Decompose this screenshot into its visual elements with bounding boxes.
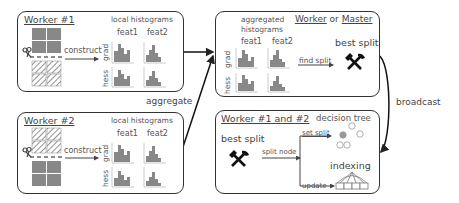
update-graphics bbox=[0, 0, 459, 203]
indexing-icon bbox=[336, 172, 368, 189]
decision-tree-icon bbox=[337, 123, 363, 148]
hammer-pick-icon bbox=[229, 150, 249, 166]
